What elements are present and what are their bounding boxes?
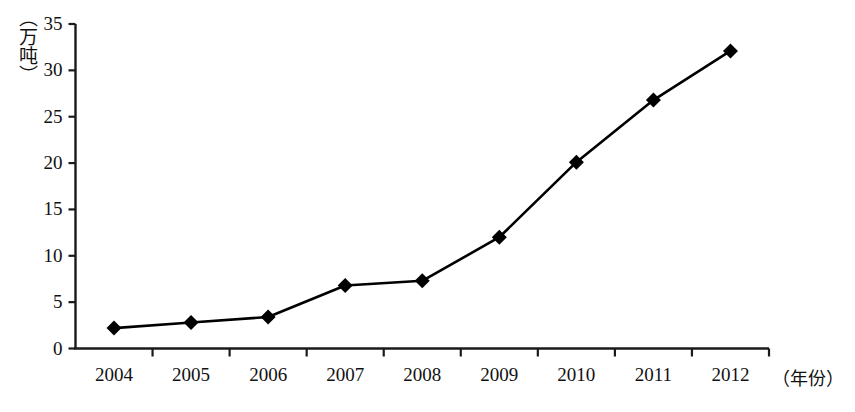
data-point-marker <box>107 321 122 336</box>
axes <box>74 24 769 349</box>
data-point-marker <box>261 309 276 324</box>
y-axis-tick-label: 15 <box>29 199 63 218</box>
data-point-marker <box>723 43 738 58</box>
x-axis-tick-label: 2006 <box>230 365 306 384</box>
x-axis-tick-label: 2009 <box>461 365 537 384</box>
x-axis-tick-label: 2007 <box>307 365 383 384</box>
y-axis-tick-label: 25 <box>29 107 63 126</box>
y-axis-tick-label: 20 <box>29 153 63 172</box>
x-axis-tick-label: 2012 <box>692 365 768 384</box>
line-chart: （万吨） （年份） 05101520253035 200420052006200… <box>0 0 855 412</box>
y-axis-tick-label: 0 <box>29 339 63 358</box>
x-axis-tick-label: 2005 <box>153 365 229 384</box>
x-axis-tick-label: 2008 <box>384 365 460 384</box>
data-point-marker <box>415 273 430 288</box>
y-axis-tick-label: 10 <box>29 246 63 265</box>
data-point-marker <box>184 315 199 330</box>
y-axis-tick-label: 30 <box>29 60 63 79</box>
x-axis-ticks <box>153 349 769 357</box>
data-markers <box>107 43 738 335</box>
y-axis-tick-label: 5 <box>29 292 63 311</box>
plot-area <box>0 0 855 412</box>
data-point-marker <box>338 278 353 293</box>
x-axis-tick-label: 2010 <box>538 365 614 384</box>
x-axis-tick-label: 2004 <box>76 365 152 384</box>
x-axis-tick-label: 2011 <box>615 365 691 384</box>
y-axis-tick-label: 35 <box>29 14 63 33</box>
